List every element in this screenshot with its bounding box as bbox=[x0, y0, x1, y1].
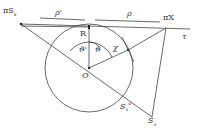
line-O-pix bbox=[128, 28, 166, 50]
label-tau: τ bbox=[182, 33, 186, 41]
label-chi: χ bbox=[113, 44, 118, 52]
label-sx: Sx bbox=[148, 117, 156, 127]
label-theta-prime: ϑ' bbox=[79, 46, 87, 54]
label-sx0: Sxo bbox=[120, 101, 131, 112]
label-pi-x: πX bbox=[163, 14, 174, 22]
label-O: O bbox=[82, 72, 89, 80]
line-pix-sx bbox=[152, 28, 166, 117]
label-theta: ϑ bbox=[95, 46, 101, 54]
label-rho: ρ bbox=[127, 10, 132, 18]
label-pi-sx: πSx bbox=[3, 7, 17, 17]
label-R: R bbox=[80, 30, 86, 38]
geometry-diagram: πSx ρ' ρ πX τ R ϑ' ϑ χ O Sxo Sx bbox=[0, 0, 197, 132]
label-rho-prime: ρ' bbox=[55, 9, 62, 17]
